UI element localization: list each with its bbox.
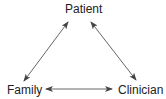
edge-patient-clinician <box>91 22 136 80</box>
edges-canvas <box>0 0 166 99</box>
edge-family-patient <box>24 22 68 81</box>
